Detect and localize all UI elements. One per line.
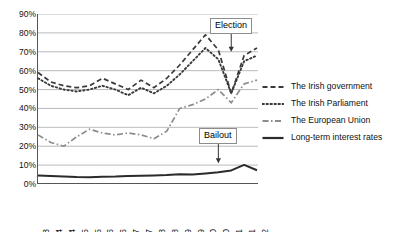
x-axis-tick-label: May-06 <box>106 229 115 232</box>
x-axis-tick-label: May-05 <box>81 229 90 232</box>
x-axis-tick-label: Nov-04 <box>68 229 77 232</box>
x-axis-tick-label: May-08 <box>158 229 167 232</box>
x-axis: Nov-03May-04Nov-04May-05Nov-05May-06Nov-… <box>37 187 258 232</box>
y-axis-tick-label: 90% <box>2 10 36 19</box>
x-axis-tick-label: Nov-06 <box>119 229 128 232</box>
chart-container: 90%80%70%60%50%40%30%20%10%0% Nov-03May-… <box>0 0 415 232</box>
x-axis-tick-label: Nov-10 <box>222 229 231 232</box>
series-line-3 <box>38 165 257 177</box>
x-axis-tick-label: Nov-05 <box>94 229 103 232</box>
legend-key-dashed <box>262 82 284 92</box>
y-axis-tick-label: 60% <box>2 67 36 76</box>
legend-item-1: The Irish Parliament <box>262 95 414 112</box>
x-axis-tick-label: May-09 <box>184 229 193 232</box>
legend-key-dashdot <box>262 116 284 126</box>
legend-item-0: The Irish government <box>262 78 414 95</box>
y-axis-tick-label: 30% <box>2 123 36 132</box>
annotation-arrow-head-1 <box>216 158 221 163</box>
legend-key-solid <box>262 133 284 143</box>
x-axis-tick-label: Nov-03 <box>42 229 51 232</box>
x-axis-tick-label: Nov-11 <box>248 229 257 232</box>
x-axis-tick-label: Nov-09 <box>197 229 206 232</box>
annotation-election: Election <box>210 18 252 34</box>
annotation-bailout: Bailout <box>199 128 237 144</box>
x-axis-tick-label: May-07 <box>132 229 141 232</box>
series-line-0 <box>38 35 257 94</box>
legend-label: The Irish government <box>291 82 372 91</box>
legend-key-dotted <box>262 99 284 109</box>
y-axis-tick-label: 50% <box>2 86 36 95</box>
plot-svg <box>37 14 258 184</box>
y-axis: 90%80%70%60%50%40%30%20%10%0% <box>0 0 36 232</box>
x-axis-tick-label: Nov-07 <box>145 229 154 232</box>
x-axis-tick-label: Nov-08 <box>171 229 180 232</box>
x-axis-tick-label: May-11 <box>235 229 244 232</box>
legend-label: Long-term interest rates <box>291 133 382 142</box>
x-axis-tick-label: May-12 <box>261 229 270 232</box>
y-axis-tick-label: 20% <box>2 142 36 151</box>
legend-label: The Irish Parliament <box>291 99 368 108</box>
legend-item-3: Long-term interest rates <box>262 129 414 146</box>
legend-label: The European Union <box>291 116 370 125</box>
x-axis-tick-label: May-10 <box>209 229 218 232</box>
y-axis-tick-label: 70% <box>2 48 36 57</box>
annotation-arrow-head-0 <box>229 47 234 52</box>
x-axis-tick-label: May-04 <box>55 229 64 232</box>
series-line-1 <box>38 48 257 95</box>
y-axis-tick-label: 0% <box>2 180 36 189</box>
legend-item-2: The European Union <box>262 112 414 129</box>
y-axis-tick-label: 40% <box>2 104 36 113</box>
y-axis-tick-label: 10% <box>2 161 36 170</box>
chart-legend: The Irish governmentThe Irish Parliament… <box>262 78 414 146</box>
plot-area <box>37 14 258 184</box>
y-axis-tick-label: 80% <box>2 29 36 38</box>
